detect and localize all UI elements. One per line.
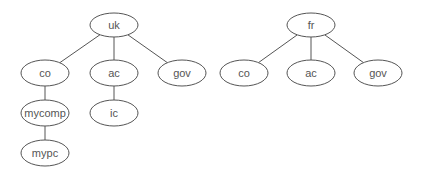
node-label: ac — [108, 67, 120, 79]
edge-uk-uk-co — [60, 35, 100, 63]
tree-node-uk-gov: gov — [158, 60, 206, 86]
edges-layer — [45, 35, 364, 140]
tree-node-uk: uk — [90, 13, 138, 37]
tree-node-mypc: mypc — [21, 140, 69, 166]
node-label: gov — [369, 67, 387, 79]
tree-node-fr: fr — [287, 13, 335, 37]
nodes-layer: ukcoacgovmycompicmypcfrcoacgov — [21, 13, 402, 166]
tree-node-uk-ac: ac — [90, 60, 138, 86]
tree-node-mycomp: mycomp — [21, 100, 69, 126]
node-label: mypc — [32, 147, 59, 159]
node-label: co — [238, 67, 250, 79]
tree-node-fr-co: co — [220, 60, 268, 86]
domain-tree-diagram: ukcoacgovmycompicmypcfrcoacgov — [0, 0, 424, 176]
tree-node-ic: ic — [90, 100, 138, 126]
tree-node-uk-co: co — [21, 60, 69, 86]
node-label: ic — [110, 107, 118, 119]
node-label: gov — [173, 67, 191, 79]
node-label: fr — [308, 19, 315, 31]
tree-node-fr-gov: gov — [354, 60, 402, 86]
node-label: co — [39, 67, 51, 79]
tree-node-fr-ac: ac — [287, 60, 335, 86]
node-label: mycomp — [24, 107, 66, 119]
edge-uk-uk-gov — [128, 35, 168, 63]
edge-fr-fr-gov — [325, 35, 364, 63]
node-label: uk — [108, 19, 120, 31]
node-label: ac — [305, 67, 317, 79]
edge-fr-fr-co — [258, 35, 297, 63]
